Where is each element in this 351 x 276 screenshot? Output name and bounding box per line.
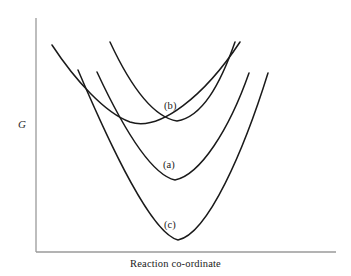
x-axis-label: Reaction co-ordinate — [0, 258, 351, 269]
curve-label-b: (b) — [164, 100, 177, 111]
free-energy-diagram-figure: G (b) (a) (c) Reaction co-ordinate — [0, 0, 351, 276]
curve-label-a: (a) — [163, 159, 175, 170]
y-axis-label: G — [18, 118, 26, 130]
curve-label-c: (c) — [164, 219, 176, 230]
plot-canvas — [0, 0, 351, 276]
curve-product-c — [78, 70, 268, 240]
curve-reactant — [52, 42, 240, 124]
